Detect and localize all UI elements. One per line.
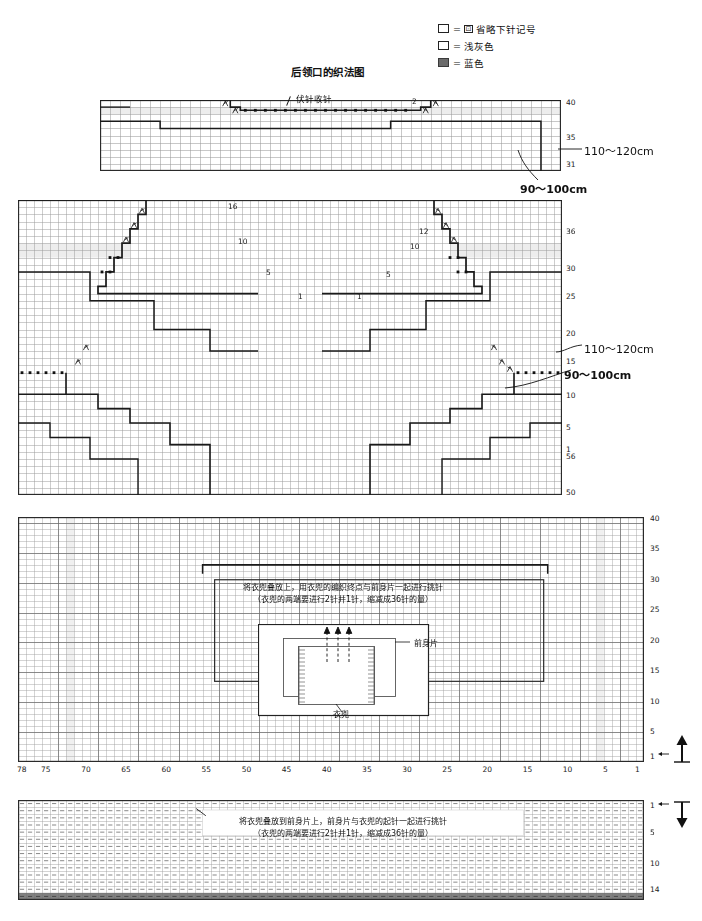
legend-label-0: 省略下针记号 — [476, 22, 536, 36]
row-label-30: 30 — [566, 265, 576, 273]
legend-equals: = — [453, 57, 461, 68]
annotation-bind-off: 伏针收针 — [296, 92, 332, 104]
column-label-65: 65 — [121, 766, 131, 774]
instruction-line-2: （衣兜的两端要进行2针并1针，缩减成36针的量） — [213, 594, 473, 606]
right-count-1: 1 — [357, 293, 362, 301]
leader-90-100 — [516, 150, 546, 182]
column-label-50: 50 — [242, 766, 252, 774]
legend-row: = 浅灰色 — [438, 37, 698, 54]
row-label-1-c4: 1 — [650, 802, 655, 810]
column-label-35: 35 — [362, 766, 372, 774]
legend-equals: = — [453, 23, 461, 34]
column-label-70: 70 — [81, 766, 91, 774]
column-label-45: 45 — [282, 766, 292, 774]
column-label-55: 55 — [202, 766, 212, 774]
row-label-10: 10 — [566, 392, 576, 400]
row-label-30-c3: 30 — [650, 576, 660, 584]
column-label-30: 30 — [402, 766, 412, 774]
row-label-35-c3: 35 — [650, 545, 660, 553]
row-label-20: 20 — [566, 330, 576, 338]
row-direction-arrow-left-icon — [658, 800, 670, 809]
row-label-10-c4: 10 — [650, 860, 660, 868]
instruction-line-2: （衣兜的两端要进行2针并1针，缩减成36针的量） — [210, 828, 476, 840]
row-label-5-c3: 5 — [650, 728, 655, 736]
chart-title-back-neck: 后领口的织法图 — [291, 64, 365, 79]
row-label-36: 36 — [566, 228, 576, 236]
legend-label-1: 浅灰色 — [464, 39, 494, 53]
right-count-12: 12 — [419, 228, 429, 236]
legend-row: = 蓝色 — [438, 54, 698, 71]
omitted-knit-symbol-icon: ⊡ — [464, 25, 473, 33]
schematic-label-front-piece: 前身片 — [414, 637, 438, 648]
column-label-78: 78 — [17, 766, 27, 774]
schematic-label-pocket: 衣兜 — [333, 708, 349, 719]
column-label-20: 20 — [483, 766, 493, 774]
column-label-1: 1 — [635, 766, 640, 774]
direction-arrow-up-icon — [672, 735, 692, 763]
row-label-15-c3: 15 — [650, 667, 660, 675]
row-direction-arrow-left-icon — [658, 750, 670, 759]
row-label-50: 50 — [566, 489, 576, 497]
left-count-1: 1 — [298, 293, 303, 301]
instruction-line-1: 将衣兜叠放上，用衣兜的编织终点与前身片一起进行挑针 — [213, 582, 473, 594]
row-label-40: 40 — [566, 99, 576, 107]
row-label-10-c3: 10 — [650, 698, 660, 706]
legend: = ⊡ 省略下针记号 = 浅灰色 = 蓝色 — [438, 20, 698, 71]
row-label-31: 31 — [566, 161, 576, 169]
legend-swatch-lightgray-icon — [438, 41, 449, 50]
column-label-10: 10 — [563, 766, 573, 774]
measure-back-neck-bottom: 90～100cm — [520, 180, 587, 196]
measure-front-bottom: 90～100cm — [564, 366, 631, 382]
row-label-1-c3: 1 — [650, 753, 655, 761]
row-label-5: 5 — [566, 424, 571, 432]
row-label-5-c4: 5 — [650, 829, 655, 837]
pocket-schematic — [258, 624, 438, 718]
instruction-pocket-top: 将衣兜叠放上，用衣兜的编织终点与前身片一起进行挑针 （衣兜的两端要进行2针并1针… — [213, 582, 473, 605]
right-count-10: 10 — [410, 243, 420, 251]
chart-pocket-pickup-bottom-grid — [18, 800, 644, 900]
legend-swatch-blue-icon — [438, 58, 449, 67]
column-label-15: 15 — [523, 766, 533, 774]
chart-back-neck-grid — [100, 100, 561, 171]
instruction-line-1: 将衣兜叠放到前身片上，前身片与衣兜的起针一起进行挑针 — [210, 816, 476, 828]
left-count-16: 16 — [228, 203, 238, 211]
row-label-40-c3: 40 — [650, 515, 660, 523]
column-label-5: 5 — [603, 766, 608, 774]
legend-label-2: 蓝色 — [464, 56, 484, 70]
legend-equals: = — [453, 40, 461, 51]
row-label-15: 15 — [566, 358, 576, 366]
column-label-60: 60 — [161, 766, 171, 774]
left-count-5: 5 — [266, 269, 271, 277]
row-label-20-c3: 20 — [650, 637, 660, 645]
right-count-5: 5 — [386, 271, 391, 279]
legend-row: = ⊡ 省略下针记号 — [438, 20, 698, 37]
row-label-56: 56 — [566, 453, 576, 461]
direction-arrow-down-icon — [672, 800, 692, 828]
column-label-75: 75 — [41, 766, 51, 774]
left-count-10: 10 — [238, 238, 248, 246]
instruction-pocket-bottom: 将衣兜叠放到前身片上，前身片与衣兜的起针一起进行挑针 （衣兜的两端要进行2针并1… — [210, 816, 476, 839]
legend-swatch-empty-icon — [438, 24, 449, 33]
column-label-40: 40 — [322, 766, 332, 774]
row-label-25-c3: 25 — [650, 606, 660, 614]
stitch-count-2-label: 2 — [412, 98, 417, 106]
chart-front-body-grid — [18, 200, 562, 495]
row-label-14-c4: 14 — [650, 886, 660, 894]
row-label-25: 25 — [566, 293, 576, 301]
measure-front-right: 110～120cm — [584, 340, 654, 356]
column-label-25: 25 — [442, 766, 452, 774]
measure-back-neck-right: 110～120cm — [584, 142, 654, 158]
